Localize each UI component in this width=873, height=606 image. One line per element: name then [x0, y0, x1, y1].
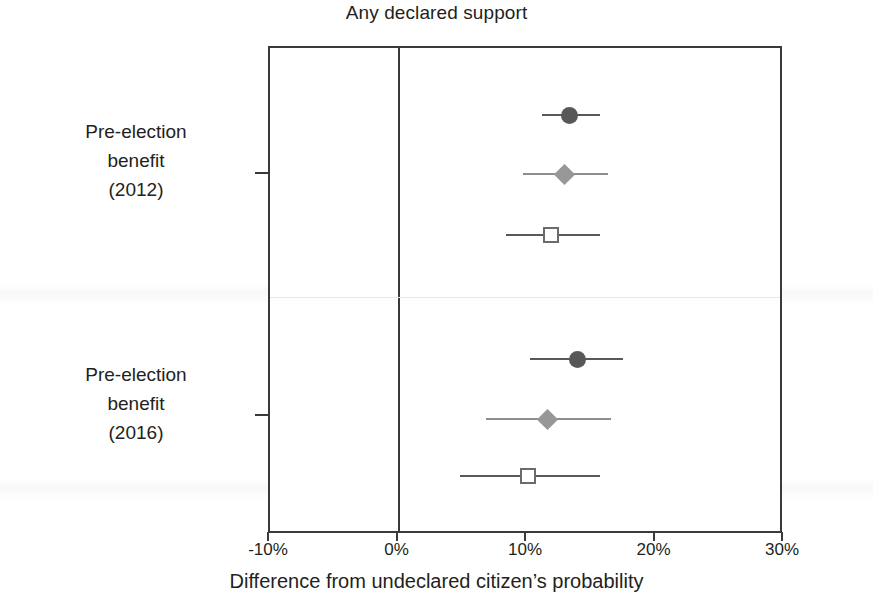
x-tick-label-20pct: 20% [609, 540, 699, 560]
y-tick-group-2012 [255, 172, 269, 174]
plot-area [268, 46, 782, 533]
category-label-2012-line3: (2012) [20, 175, 252, 204]
point-marker-square [520, 468, 536, 484]
point-marker-diamond [554, 163, 575, 184]
category-label-2016: Pre-election benefit (2016) [20, 360, 252, 447]
forest-plot-figure: Any declared support Pre-election benefi… [0, 0, 873, 606]
point-marker-diamond [537, 408, 558, 429]
category-label-2012-line1: Pre-election [20, 117, 252, 146]
x-tick-label-neg10pct: -10% [223, 540, 313, 560]
x-tick-label-30pct: 30% [737, 540, 827, 560]
estimate-row-2012-diamond [270, 161, 780, 187]
category-label-2016-line3: (2016) [20, 418, 252, 447]
point-marker-circle [561, 107, 578, 124]
group-separator-line [270, 297, 780, 298]
point-marker-square [543, 227, 559, 243]
category-label-2016-line1: Pre-election [20, 360, 252, 389]
estimate-row-2012-circle [270, 102, 780, 128]
category-label-2016-line2: benefit [20, 389, 252, 418]
estimate-row-2016-circle [270, 346, 780, 372]
x-tick-label-0pct: 0% [352, 540, 442, 560]
chart-title: Any declared support [0, 2, 873, 24]
estimate-row-2012-square [270, 222, 780, 248]
estimate-row-2016-square [270, 463, 780, 489]
estimate-row-2016-diamond [270, 406, 780, 432]
x-tick-label-10pct: 10% [480, 540, 570, 560]
category-label-2012-line2: benefit [20, 146, 252, 175]
x-axis-title: Difference from undeclared citizen’s pro… [0, 570, 873, 593]
y-tick-group-2016 [255, 414, 269, 416]
point-marker-circle [569, 351, 586, 368]
category-label-2012: Pre-election benefit (2012) [20, 117, 252, 204]
